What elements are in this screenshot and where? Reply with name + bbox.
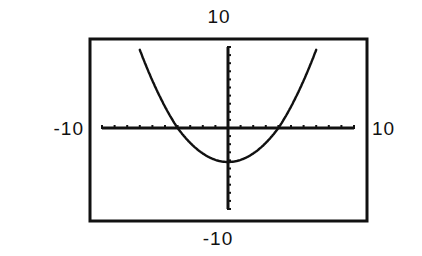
graph-screen	[0, 0, 422, 256]
